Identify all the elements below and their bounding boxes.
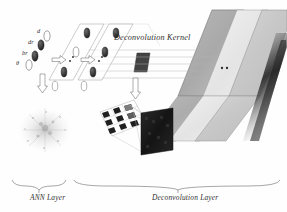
ann-arrow-down — [38, 74, 48, 93]
brace-ann — [12, 180, 66, 193]
deconv-arrow-down — [131, 78, 141, 99]
ann-layer-caption: ANN Layer — [30, 193, 65, 202]
input-label-d: d — [37, 27, 40, 34]
output-feature-map — [141, 108, 173, 155]
deconvolution-kernel-caption: Deconvolution Kernel — [114, 33, 191, 42]
kernel-grid — [100, 100, 146, 152]
brace-deconv — [74, 180, 280, 193]
input-label-dr: dr — [28, 38, 34, 45]
ann-input-nodes — [26, 31, 50, 70]
figure-canvas: d dr br θ Deconvolution Kernel ANN Layer… — [0, 0, 287, 212]
deconvolution-layer-caption: Deconvolution Layer — [152, 193, 218, 202]
ann-extra-node-2 — [81, 81, 87, 91]
input-label-br: br — [22, 49, 28, 56]
diagram-vector-art — [0, 0, 287, 212]
deconvolution-kernel-tile — [134, 53, 150, 72]
ann-scatter-cloud — [19, 108, 71, 152]
ann-extra-node — [52, 81, 58, 91]
input-label-theta: θ — [16, 59, 19, 66]
